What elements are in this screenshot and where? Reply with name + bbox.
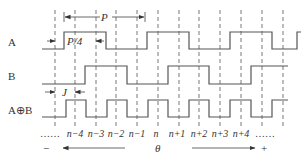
tick-label: n: [154, 128, 159, 139]
quarter-period-label: P/4: [66, 35, 83, 47]
waveform-axorb: [42, 100, 288, 117]
theta-label: θ: [155, 142, 161, 154]
tick-label: ……: [40, 128, 60, 139]
minus-label: −: [43, 142, 49, 154]
tick-label: n−2: [108, 128, 125, 139]
tick-label: n+3: [212, 128, 229, 139]
offset-label: J: [62, 86, 68, 98]
tick-label: n+2: [191, 128, 208, 139]
tick-label: n−3: [88, 128, 105, 139]
tick-label: n−1: [129, 128, 146, 139]
dashed-grid-lines: [55, 10, 283, 128]
tick-label: n+1: [169, 128, 186, 139]
dimension-annotations: PP/4J: [45, 11, 145, 98]
waveform-b: [42, 66, 288, 84]
tick-label: n+4: [233, 128, 250, 139]
signal-labels: ABA⊕B: [8, 36, 32, 116]
timing-diagram: PP/4J ……n−4n−3n−2n−1nn+1n+2n+3n+4……−θ+ A…: [0, 0, 301, 161]
signal-label-axorb: A⊕B: [8, 104, 32, 116]
signal-label-a: A: [8, 36, 16, 48]
tick-label: ……: [255, 128, 275, 139]
signal-label-b: B: [8, 70, 15, 82]
angle-axis: ……n−4n−3n−2n−1nn+1n+2n+3n+4……−θ+: [40, 128, 275, 154]
plus-label: +: [261, 142, 267, 154]
period-label: P: [100, 11, 108, 23]
tick-label: n−4: [67, 128, 84, 139]
